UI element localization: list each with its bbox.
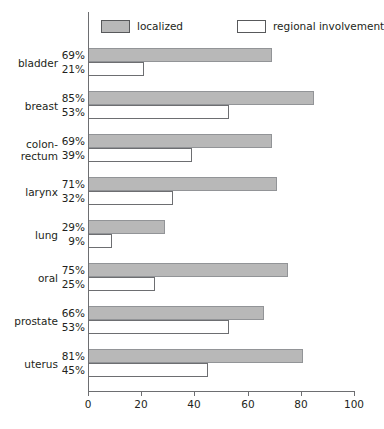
value-label-localized: 81% [59, 351, 85, 362]
bar-group: uterus81%45% [0, 349, 375, 377]
bar-regional-involvement [88, 363, 208, 377]
x-axis-tick-label: 80 [294, 399, 307, 410]
x-axis-tick-label: 0 [85, 399, 92, 410]
value-label-regional-involvement: 45% [59, 365, 85, 376]
category-label: uterus [0, 359, 58, 371]
value-label-localized: 69% [59, 50, 85, 61]
bar-regional-involvement [88, 62, 144, 76]
bar-localized [88, 306, 264, 320]
bar-localized [88, 349, 303, 363]
x-axis-tick [301, 391, 302, 396]
value-label-regional-involvement: 21% [59, 64, 85, 75]
bar-group: colon-rectum69%39% [0, 134, 375, 162]
value-label-regional-involvement: 53% [59, 322, 85, 333]
bar-regional-involvement [88, 234, 112, 248]
x-axis-tick-label: 40 [187, 399, 200, 410]
category-label: lung [0, 230, 58, 242]
bar-group: larynx71%32% [0, 177, 375, 205]
bar-group: bladder69%21% [0, 48, 375, 76]
bar-regional-involvement [88, 191, 173, 205]
bar-regional-involvement [88, 277, 155, 291]
x-axis-tick [194, 391, 195, 396]
bar-localized [88, 134, 272, 148]
y-axis-line [88, 12, 89, 391]
category-label: larynx [0, 187, 58, 199]
value-label-localized: 69% [59, 136, 85, 147]
category-label: colon-rectum [0, 139, 58, 162]
category-label-line: rectum [0, 151, 58, 163]
x-axis-tick [141, 391, 142, 396]
value-label-localized: 66% [59, 308, 85, 319]
x-axis-tick [248, 391, 249, 396]
bar-localized [88, 263, 288, 277]
category-label: oral [0, 273, 58, 285]
value-label-localized: 75% [59, 265, 85, 276]
x-axis-tick [88, 391, 89, 396]
bar-group: oral75%25% [0, 263, 375, 291]
x-axis-tick-label: 100 [344, 399, 364, 410]
bar-regional-involvement [88, 105, 229, 119]
bar-group: prostate66%53% [0, 306, 375, 334]
value-label-localized: 71% [59, 179, 85, 190]
x-axis-tick-label: 20 [134, 399, 147, 410]
bar-localized [88, 177, 277, 191]
value-label-localized: 29% [59, 222, 85, 233]
bar-regional-involvement [88, 320, 229, 334]
category-label: breast [0, 101, 58, 113]
value-label-regional-involvement: 25% [59, 279, 85, 290]
value-label-regional-involvement: 32% [59, 193, 85, 204]
x-axis-line [88, 391, 354, 392]
bar-localized [88, 48, 272, 62]
category-label: bladder [0, 58, 58, 70]
bar-regional-involvement [88, 148, 192, 162]
bar-group: lung29%9% [0, 220, 375, 248]
x-axis-tick [354, 391, 355, 396]
value-label-regional-involvement: 53% [59, 107, 85, 118]
bar-localized [88, 91, 314, 105]
category-label-line: colon- [0, 139, 58, 151]
bar-group: breast85%53% [0, 91, 375, 119]
value-label-regional-involvement: 39% [59, 150, 85, 161]
value-label-localized: 85% [59, 93, 85, 104]
bar-localized [88, 220, 165, 234]
value-label-regional-involvement: 9% [59, 236, 85, 247]
x-axis-tick-label: 60 [241, 399, 254, 410]
category-label: prostate [0, 316, 58, 328]
